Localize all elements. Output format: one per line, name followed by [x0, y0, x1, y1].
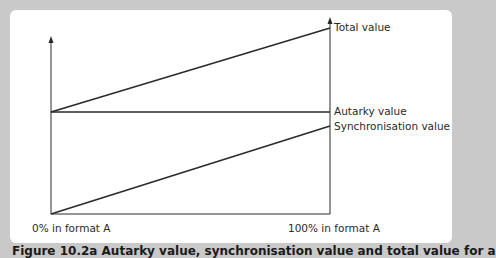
x-axis-left-label: 0% in format A	[32, 222, 110, 234]
figure-caption: Figure 10.2a Autarky value, synchronisat…	[12, 244, 496, 258]
right-axis-arrow-icon	[328, 17, 333, 24]
x-axis-right-label: 100% in format A	[288, 222, 380, 234]
synchronisation-value-label: Synchronisation value	[334, 120, 450, 132]
synchronisation-value-line	[51, 126, 330, 214]
autarky-value-label: Autarky value	[334, 105, 407, 117]
total-value-label: Total value	[334, 21, 391, 33]
total-value-line	[51, 28, 330, 112]
left-axis-arrow-icon	[49, 36, 54, 43]
